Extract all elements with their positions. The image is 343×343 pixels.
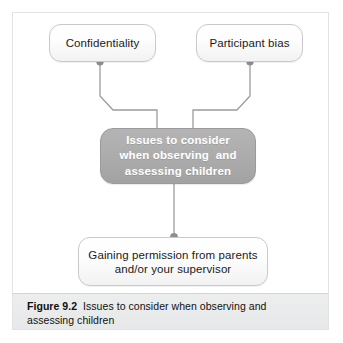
node-gaining-permission-label: Gaining permission from parents and/or y… — [79, 248, 267, 276]
figure-container: Confidentiality Participant bias Issues … — [0, 0, 343, 343]
node-central-issues: Issues to consider when observing and as… — [100, 128, 256, 184]
figure-caption: Figure 9.2 Issues to consider when obser… — [27, 300, 314, 327]
node-confidentiality: Confidentiality — [49, 24, 156, 62]
node-confidentiality-label: Confidentiality — [60, 36, 146, 50]
figure-caption-label: Figure 9.2 — [27, 300, 77, 312]
node-central-issues-label: Issues to consider when observing and as… — [119, 133, 236, 180]
figure-caption-band: Figure 9.2 Issues to consider when obser… — [13, 293, 328, 329]
node-participant-bias-label: Participant bias — [203, 36, 295, 50]
node-participant-bias: Participant bias — [196, 24, 303, 62]
node-gaining-permission: Gaining permission from parents and/or y… — [78, 237, 268, 286]
